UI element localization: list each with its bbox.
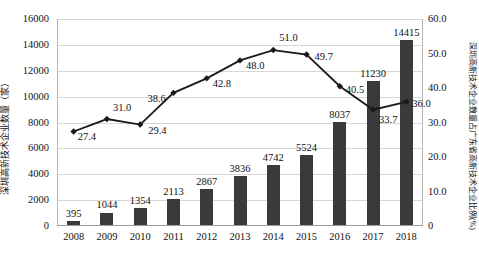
- x-axis-labels: 2008200920102011201220132014201520162017…: [57, 231, 423, 247]
- x-axis-tick-label: 2014: [257, 231, 290, 243]
- y-axis-left-tick: 8000: [28, 118, 49, 129]
- x-axis-tick-label: 2009: [90, 231, 123, 243]
- y-axis-left-tick: 6000: [28, 143, 49, 154]
- bar-value-label: 11230: [353, 68, 393, 79]
- bar-value-label: 2867: [187, 176, 227, 187]
- line-marker: [270, 47, 276, 53]
- x-axis-tick-label: 2018: [390, 231, 423, 243]
- bar-value-label: 5524: [287, 142, 327, 153]
- line-marker: [204, 75, 210, 81]
- y-axis-left-tick: 2000: [28, 195, 49, 206]
- y-axis-right-ticks: 60.050.040.030.020.010.00: [424, 0, 456, 272]
- line-value-label: 48.0: [246, 60, 264, 71]
- y-axis-right-tick: 10.0: [428, 187, 446, 198]
- line-value-label: 51.0: [279, 32, 297, 43]
- y-axis-left-title: 深圳高新技术企业数量（家）: [0, 0, 12, 272]
- bar-value-label: 2113: [153, 186, 193, 197]
- y-axis-left-tick: 0: [44, 221, 49, 232]
- x-axis-tick-label: 2008: [57, 231, 90, 243]
- bar-value-label: 8037: [320, 109, 360, 120]
- y-axis-right-tick: 20.0: [428, 152, 446, 163]
- plot-area: 3951044135421132867383647425524803711230…: [57, 19, 423, 226]
- x-axis-tick-label: 2012: [190, 231, 223, 243]
- line-value-label: 36.0: [412, 98, 430, 109]
- x-axis-tick-label: 2011: [157, 231, 190, 243]
- line-value-label: 40.5: [346, 84, 364, 95]
- x-axis-tick-label: 2015: [290, 231, 323, 243]
- line-marker: [403, 99, 409, 105]
- line-value-label: 31.0: [113, 102, 131, 113]
- y-axis-right-tick: 0: [428, 221, 433, 232]
- line-marker: [104, 116, 110, 122]
- y-axis-right-title: 深圳高新技术企业数量占广东省高新技术企业比例(%): [465, 0, 479, 272]
- x-axis-tick-label: 2013: [223, 231, 256, 243]
- y-axis-left-ticks: 1600014000120001000080006000400020000: [17, 0, 51, 272]
- y-axis-left-title-text: 深圳高新技术企业数量（家）: [0, 78, 10, 195]
- bar-value-label: 14415: [386, 27, 426, 38]
- line-value-label: 33.7: [379, 114, 397, 125]
- y-axis-left-tick: 14000: [23, 40, 49, 51]
- y-axis-right-title-text: 深圳高新技术企业数量占广东省高新技术企业比例(%): [467, 42, 477, 230]
- y-axis-right-tick: 40.0: [428, 83, 446, 94]
- line-value-label: 29.4: [148, 125, 166, 136]
- y-axis-left-tick: 4000: [28, 169, 49, 180]
- line-value-label: 42.8: [213, 78, 231, 89]
- line-value-label: 27.4: [78, 131, 96, 142]
- y-axis-right-tick: 60.0: [428, 14, 446, 25]
- axis-bottom-line: [57, 225, 423, 226]
- y-axis-left-tick: 16000: [23, 14, 49, 25]
- line-value-label: 38.6: [147, 93, 165, 104]
- x-axis-tick-label: 2010: [124, 231, 157, 243]
- x-axis-tick-label: 2016: [323, 231, 356, 243]
- bar-value-label: 3836: [220, 163, 260, 174]
- bar-value-label: 1354: [120, 195, 160, 206]
- line-marker: [70, 128, 76, 134]
- bar-value-label: 4742: [253, 152, 293, 163]
- line-series: [57, 19, 423, 226]
- line-marker: [237, 57, 243, 63]
- y-axis-left-tick: 10000: [23, 92, 49, 103]
- y-axis-left-tick: 12000: [23, 66, 49, 77]
- y-axis-right-tick: 50.0: [428, 49, 446, 60]
- y-axis-right-tick: 30.0: [428, 118, 446, 129]
- x-axis-tick-label: 2017: [356, 231, 389, 243]
- line-value-label: 49.7: [315, 51, 333, 62]
